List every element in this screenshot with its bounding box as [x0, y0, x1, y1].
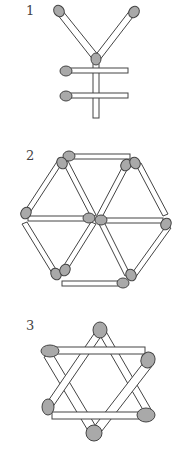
match-head: [137, 408, 155, 422]
matchstick: [136, 163, 168, 216]
match-head: [60, 66, 72, 76]
match-head: [86, 425, 102, 441]
figure-1: 1: [26, 3, 142, 118]
matchstick: [57, 10, 99, 61]
matchstick: [52, 412, 142, 419]
match-head: [117, 278, 129, 288]
match-head: [91, 53, 101, 65]
matchstick: [28, 216, 90, 221]
matchstick: [98, 220, 130, 276]
matchstick: [50, 347, 145, 354]
matchstick: [68, 154, 130, 159]
match-head: [42, 399, 54, 415]
match-head: [41, 345, 59, 357]
matchstick-puzzles: 1 2: [0, 0, 178, 474]
matchstick: [24, 160, 63, 214]
matchstick: [22, 222, 57, 273]
matchstick: [66, 68, 128, 73]
matchstick: [66, 93, 128, 98]
figure-3: 3: [26, 318, 157, 441]
matchstick: [100, 218, 163, 223]
match-head: [83, 213, 95, 223]
figure-2: 2: [19, 148, 174, 288]
matchstick: [96, 164, 129, 219]
matchstick: [63, 161, 96, 217]
matchstick: [62, 281, 124, 286]
figure-2-label: 2: [26, 148, 34, 163]
match-head: [93, 322, 107, 338]
matchstick: [44, 353, 98, 434]
match-head: [95, 215, 107, 225]
figure-3-label: 3: [26, 318, 34, 333]
matchstick: [130, 226, 171, 278]
match-head: [60, 91, 72, 101]
figure-1-label: 1: [26, 3, 34, 18]
